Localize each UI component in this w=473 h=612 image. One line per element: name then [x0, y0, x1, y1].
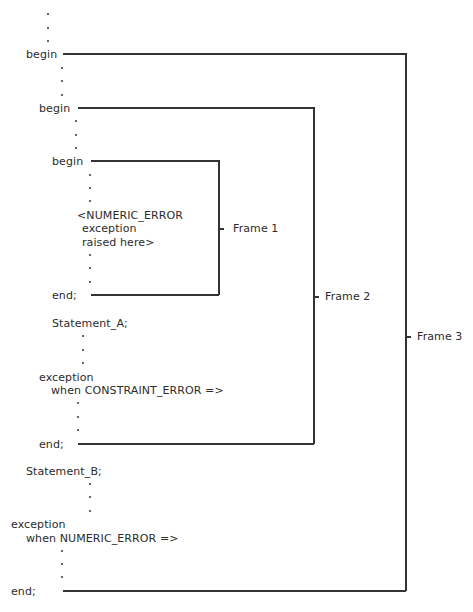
- frame2-label: Frame 2: [325, 290, 370, 303]
- frame3-tick: [406, 336, 411, 338]
- ellipsis-dot: [75, 120, 77, 122]
- outer-exception-keyword: exception: [11, 518, 66, 531]
- middle-exception-keyword: exception: [39, 371, 94, 384]
- frame3-label: Frame 3: [417, 330, 462, 343]
- ellipsis-dot: [82, 349, 84, 351]
- middle-end-keyword: end;: [39, 438, 64, 451]
- ellipsis-dot: [82, 335, 84, 337]
- ellipsis-dot: [61, 576, 63, 578]
- outer-handler: when NUMERIC_ERROR =>: [26, 532, 179, 545]
- ellipsis-dot: [89, 254, 91, 256]
- ellipsis-dot: [61, 94, 63, 96]
- middle-begin-keyword: begin: [39, 102, 70, 115]
- ellipsis-dot: [47, 27, 49, 29]
- frame2-tick: [314, 296, 319, 298]
- ellipsis-dot: [89, 281, 91, 283]
- statement-b: Statement_B;: [26, 465, 102, 478]
- frame1-bottom-line: [91, 294, 219, 296]
- middle-handler: when CONSTRAINT_ERROR =>: [51, 384, 224, 397]
- ellipsis-dot: [77, 429, 79, 431]
- ellipsis-dot: [89, 496, 91, 498]
- ellipsis-dot: [47, 40, 49, 42]
- ellipsis-dot: [89, 510, 91, 512]
- ellipsis-dot: [89, 187, 91, 189]
- ellipsis-dot: [75, 134, 77, 136]
- raise-note-line1: <NUMERIC_ERROR: [77, 209, 183, 222]
- frame3-bottom-line: [63, 590, 406, 592]
- frame2-right-line: [313, 107, 315, 444]
- ellipsis-dot: [47, 13, 49, 15]
- ellipsis-dot: [77, 402, 79, 404]
- frame2-bottom-line: [78, 443, 314, 445]
- ellipsis-dot: [89, 267, 91, 269]
- inner-begin-keyword: begin: [52, 155, 83, 168]
- frame1-tick: [219, 228, 224, 230]
- statement-a: Statement_A;: [52, 317, 128, 330]
- frame1-label: Frame 1: [233, 222, 278, 235]
- ellipsis-dot: [77, 416, 79, 418]
- ellipsis-dot: [61, 550, 63, 552]
- raise-note-line3: raised here>: [82, 236, 155, 249]
- ellipsis-dot: [89, 200, 91, 202]
- ellipsis-dot: [82, 362, 84, 364]
- raise-note-line2: exception: [82, 222, 137, 235]
- ellipsis-dot: [61, 67, 63, 69]
- ellipsis-dot: [61, 563, 63, 565]
- frame1-top-line: [91, 160, 219, 162]
- ellipsis-dot: [89, 483, 91, 485]
- ellipsis-dot: [75, 147, 77, 149]
- ellipsis-dot: [89, 174, 91, 176]
- ellipsis-dot: [61, 80, 63, 82]
- inner-end-keyword: end;: [52, 289, 77, 302]
- outer-end-keyword: end;: [11, 585, 36, 598]
- frame3-right-line: [405, 53, 407, 591]
- outer-begin-keyword: begin: [26, 48, 57, 61]
- frame3-top-line: [63, 53, 406, 55]
- frame2-top-line: [78, 107, 314, 109]
